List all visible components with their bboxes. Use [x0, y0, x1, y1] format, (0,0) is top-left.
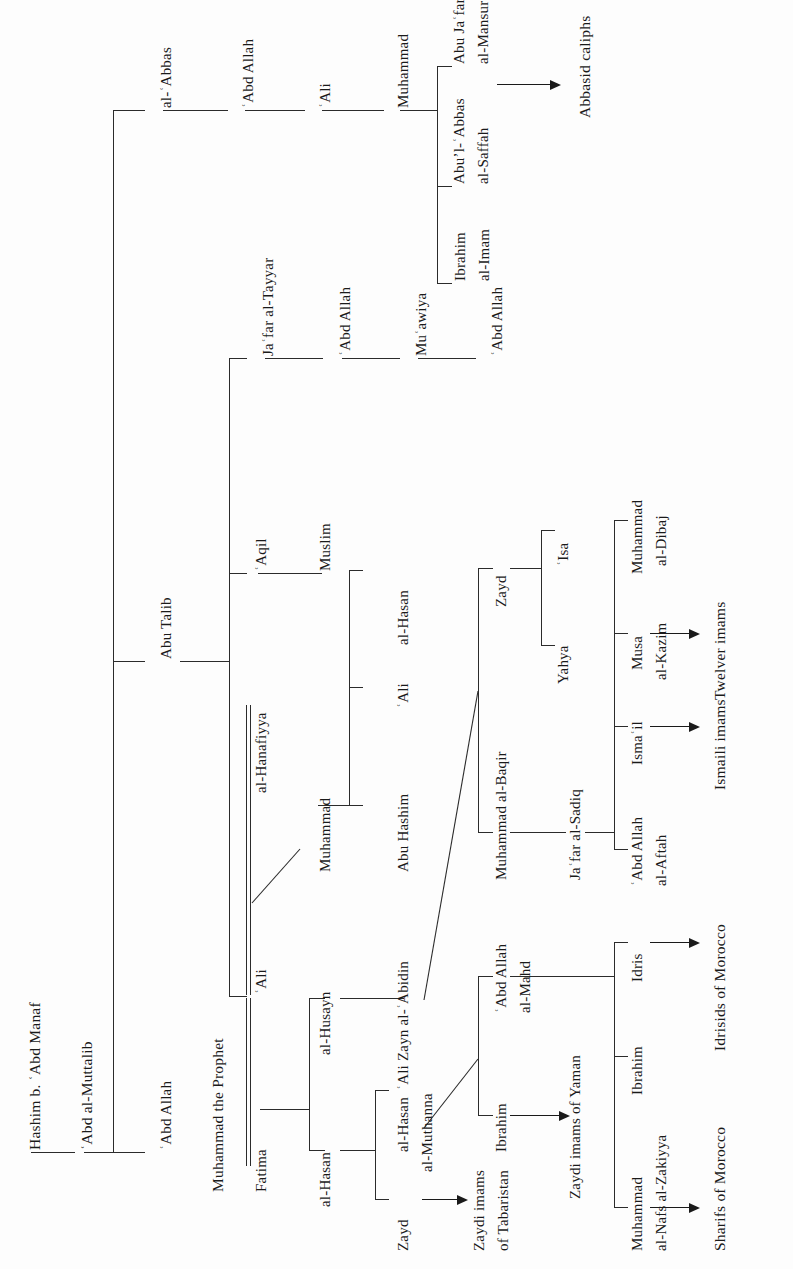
connector-to-ibrahim-yaman — [478, 1115, 493, 1116]
connector-to-nafs-zakiyya — [614, 1207, 628, 1208]
node-ibrahim-idrisid: Ibrahim — [630, 1046, 645, 1095]
sibling-bar-muthanna-sons — [478, 976, 479, 1116]
connector-to-ibrahim-idrisid — [614, 1056, 628, 1057]
node-hanafiyya-muhammad: Muhammad — [318, 798, 333, 872]
node-ibrahim-al-imam-line2: al-Imam — [476, 229, 493, 281]
node-abul-abbas-al-saffah-2: al-Saffah — [476, 128, 491, 185]
node-al-husayn: al-Husayn — [318, 992, 333, 1055]
node-musa-al-kazim-2: al-Kazim — [654, 623, 669, 680]
node-muhammad-al-dibaj-2: al-Dibaj — [654, 515, 669, 566]
connector-to-aftah — [614, 849, 628, 850]
arrow-ismaili-imams — [650, 726, 698, 727]
node-al-hanafiyya: al-Hanafiyya — [254, 712, 269, 793]
connector-to-yahya — [541, 645, 555, 646]
node-abu-hashim: Abu Hashim — [396, 794, 411, 872]
node-abbasid-muhammad: Muhammad — [396, 34, 411, 108]
node-muawiya: Muʿawiya — [414, 293, 429, 356]
node-ismail: Ismaʿil — [630, 721, 645, 765]
sibling-bar-zayd-sons — [541, 530, 542, 646]
node-musa-al-kazim: Musa — [630, 636, 645, 670]
node-zaydi-tabaristan: Zaydi imams — [472, 1170, 487, 1251]
connector-to-aldibaj — [614, 520, 628, 521]
node-aqil: ʿAqil — [254, 538, 269, 571]
node-abd-al-muttalib: ʿAbd al-Muttalib — [79, 1041, 95, 1150]
node-ibrahim-al-imam-2: al-Imam — [476, 229, 493, 281]
node-hasan-al-muthanna-2: al-Muthanna — [420, 1093, 435, 1172]
node-muhammad-al-nafs: Muhammad — [630, 1177, 645, 1251]
node-hasan-al-muthanna: al-Hasan — [396, 1097, 411, 1152]
node-ibrahim-yaman: Ibrahim — [494, 1103, 509, 1152]
connector-to-idris — [614, 942, 628, 943]
sibling-bar-sadiq-sons — [614, 520, 615, 850]
connector-zayd-stem — [510, 568, 542, 569]
node-abd-allah-al-aftah: ʿAbd Allah — [630, 817, 645, 886]
node-abu-talib: Abu Talib — [159, 597, 174, 659]
node-ismaili-imams: Ismaili imams — [712, 699, 728, 790]
node-abu-jafar-al-mansur: Abu Jaʿfar — [452, 0, 467, 64]
node-muhammad-al-nafs-2: al-Nafs al-Zakiyya — [654, 1135, 669, 1251]
node-isa: ʿIsa — [556, 543, 571, 566]
node-ibrahim-al-imam-line1: Ibrahim — [452, 232, 469, 281]
node-abd-allah: ʿAbd Allah — [159, 1081, 174, 1150]
node-jafar-al-sadiq: Jaʿfar al-Sadiq — [568, 789, 583, 880]
node-al-hasan: al-Hasan — [318, 1152, 333, 1207]
arrow-idrisids — [650, 942, 698, 943]
node-idris: Idris — [630, 954, 645, 983]
node-abbasid-ali: ʿAli — [318, 83, 333, 108]
node-muhammad-the-prophet: Muhammad the Prophet — [210, 1038, 226, 1192]
family-tree-diagram: Hashim b. ʿAbd Manaf ʿAbd al-Muttalib al… — [0, 0, 793, 1269]
node-muslim: Muslim — [318, 523, 333, 571]
node-jafar-abd-allah: ʿAbd Allah — [338, 287, 353, 356]
node-ibrahim-al-imam: Ibrahim — [452, 232, 469, 281]
node-abd-allah-al-mahd: ʿAbd Allah — [494, 944, 509, 1013]
node-abbasid-caliphs: Abbasid caliphs — [577, 16, 593, 118]
node-abu-jafar-al-mansur-2: al-Mansur — [476, 1, 491, 64]
connector-to-isa — [541, 530, 555, 531]
node-twelver-imams: Twelver imams — [712, 602, 728, 700]
connector-baqir-sadiq — [510, 832, 566, 833]
node-muawiya-abd-allah: ʿAbd Allah — [490, 287, 505, 356]
node-abbasid-abd-allah: ʿAbd Allah — [241, 39, 256, 108]
node-hanafiyya-ali: ʿAli — [396, 683, 411, 708]
connector-sadiq-stem — [585, 832, 615, 833]
arrow-zaydi-yaman — [510, 1115, 568, 1116]
node-hanafiyya-al-hasan: al-Hasan — [396, 590, 411, 645]
node-muhammad-al-baqir: Muhammad al-Baqir — [494, 751, 509, 880]
node-zaydi-imams-yaman: Zaydi imams of Yaman — [568, 1055, 583, 1199]
node-sharifs-of-morocco: Sharifs of Morocco — [712, 1127, 728, 1251]
node-zaydi-tabaristan-2: of Tabaristan — [496, 1170, 511, 1251]
node-muhammad-al-dibaj: Muhammad — [630, 500, 645, 574]
connector-to-musa — [614, 633, 628, 634]
node-zayn-al-abidin: ʿAli Zayn al-ʿAbidin — [396, 961, 411, 1090]
node-abd-allah-al-mahd-2: al-Mahd — [518, 961, 533, 1013]
node-idrisids-of-morocco: Idrisids of Morocco — [712, 924, 728, 1051]
node-fatima: Fatima — [254, 1149, 269, 1192]
connector-to-ismail — [614, 726, 628, 727]
node-abul-abbas-al-saffah: Abuʼl-ʿAbbas — [452, 98, 467, 184]
node-abd-allah-al-aftah-2: al-Aftah — [654, 834, 669, 886]
connector-to-abdallah-mahd — [478, 976, 493, 977]
node-hashim: Hashim b. ʿAbd Manaf — [27, 1002, 43, 1150]
node-al-abbas: al-ʿAbbas — [159, 47, 174, 108]
node-zayd: Zayd — [494, 575, 509, 607]
sibling-bar-mahd-sons — [614, 942, 615, 1208]
node-yahya: Yahya — [556, 645, 571, 684]
node-jafar-al-tayyar: Jaʿfar al-Tayyar — [261, 258, 276, 356]
node-ali: ʿAli — [254, 969, 269, 994]
node-zayd-tabaristan: Zayd — [396, 1219, 411, 1251]
